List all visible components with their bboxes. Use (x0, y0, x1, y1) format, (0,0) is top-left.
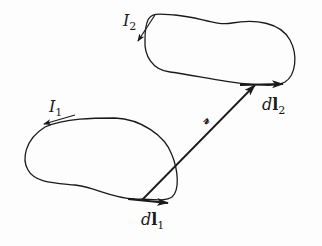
current-2-arrow (138, 15, 155, 41)
separation-vector-label: 𝓇 (203, 111, 210, 127)
current-1-label: I1 (48, 97, 62, 119)
diagram-canvas: I2 I1 𝓇 dl2 dl1 (0, 0, 322, 246)
dl1-label: dl1 (141, 210, 164, 232)
current-loops-diagram: I2 I1 𝓇 dl2 dl1 (0, 0, 322, 246)
dl2-label: dl2 (262, 95, 285, 117)
current-2-label: I2 (122, 11, 136, 33)
separation-vector (142, 85, 255, 200)
loop-2-outline (145, 14, 295, 85)
dl2-arrow (240, 84, 283, 85)
